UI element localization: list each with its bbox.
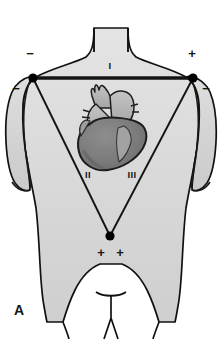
lead-iii-label: III: [128, 169, 137, 180]
polarity-negative-right-arm-upper: −: [26, 46, 34, 61]
electrode-left-leg[interactable]: [105, 231, 114, 240]
electrode-left-arm[interactable]: [188, 73, 197, 82]
polarity-negative-right-arm-lower: −: [12, 81, 20, 96]
figure-panel: I II III − − + − + + A: [0, 0, 218, 339]
electrode-right-arm[interactable]: [28, 73, 37, 82]
panel-label: A: [14, 302, 24, 318]
lead-i-label: I: [109, 60, 112, 71]
einthoven-triangle-figure: I II III − − + − + + A: [0, 0, 218, 339]
polarity-negative-left-arm-lower: −: [202, 81, 210, 96]
polarity-positive-left-arm-upper: +: [188, 46, 196, 61]
lead-ii-label: II: [85, 169, 91, 180]
polarity-positive-left-leg-b: +: [116, 245, 124, 260]
polarity-positive-left-leg-a: +: [97, 245, 105, 260]
